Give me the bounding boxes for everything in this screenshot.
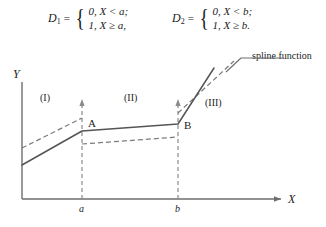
dashed-segment-2 <box>82 137 178 144</box>
axes-group <box>22 82 281 202</box>
y-axis-label: Y <box>13 67 21 81</box>
knot-line-b-group <box>175 99 180 199</box>
spline-plot: Y X a b A B (I) (II) (III) <box>0 0 326 227</box>
dashed-segment-1 <box>22 118 82 148</box>
region-label-1: (I) <box>40 92 50 104</box>
region-label-2: (II) <box>124 92 137 104</box>
xtick-label-a: a <box>79 203 84 214</box>
figure-root: D1 = { 0, X < a; 1, X ≥ a, D2 = { 0, X <… <box>0 0 326 227</box>
knot-line-b-arrowhead <box>175 99 180 106</box>
x-axis-label: X <box>287 192 296 206</box>
knot-point-label-b: B <box>184 119 191 131</box>
knot-point-label-a: A <box>88 117 96 129</box>
knot-line-a-arrowhead <box>79 99 84 106</box>
spline-curve <box>22 68 214 165</box>
region-label-3: (III) <box>205 97 222 109</box>
x-axis-arrowhead <box>274 196 281 202</box>
knot-line-a-group <box>79 99 84 199</box>
xtick-label-b: b <box>175 203 180 214</box>
legend-leader-line <box>226 58 283 72</box>
